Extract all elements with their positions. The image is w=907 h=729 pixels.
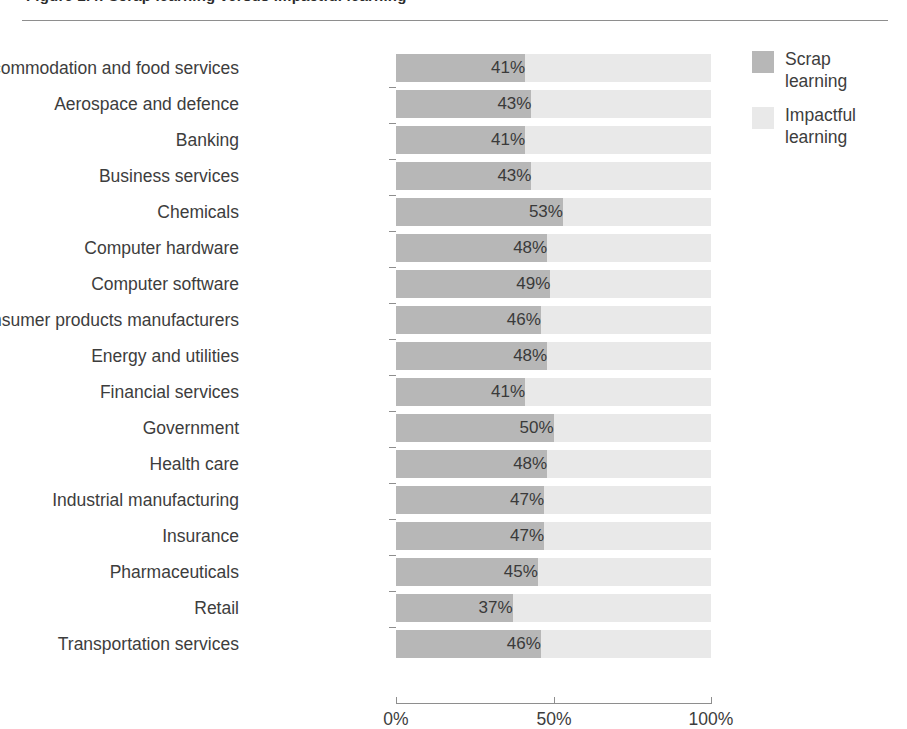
- legend-swatch-scrap-learning: [752, 51, 774, 73]
- bar-value-label: 37%: [396, 594, 522, 622]
- bar-row: Consumer products manufacturers46%: [0, 302, 760, 338]
- category-label: Energy and utilities: [91, 338, 239, 374]
- category-label: Computer hardware: [84, 230, 239, 266]
- bar-value-label: 49%: [396, 270, 559, 298]
- y-axis-tick: [389, 87, 396, 88]
- category-label: Retail: [194, 590, 239, 626]
- bar-value-label: 46%: [396, 630, 550, 658]
- bar-row: Health care48%: [0, 446, 760, 482]
- bar-value-label: 46%: [396, 306, 550, 334]
- bar-value-label: 41%: [396, 378, 534, 406]
- category-label: Banking: [176, 122, 239, 158]
- y-axis-tick: [389, 519, 396, 520]
- x-axis-tick-label: 100%: [689, 709, 734, 729]
- bar-value-label: 47%: [396, 522, 553, 550]
- bar-row: Financial services41%: [0, 374, 760, 410]
- y-axis-tick: [389, 447, 396, 448]
- bar-track-impactful-learning: 41%: [396, 378, 711, 406]
- x-axis-tick-label: 0%: [383, 709, 408, 729]
- bar-row: Aerospace and defence43%: [0, 86, 760, 122]
- bar-row: Transportation services46%: [0, 626, 760, 662]
- category-label: Chemicals: [157, 194, 239, 230]
- figure-title: Figure 2.4: Scrap learning versus impact…: [26, 0, 407, 4]
- y-axis-tick: [389, 159, 396, 160]
- chart-legend: Scrap learning Impactful learning: [752, 48, 902, 160]
- bar-track-impactful-learning: 47%: [396, 486, 711, 514]
- bar-value-label: 43%: [396, 90, 540, 118]
- bar-row: Insurance47%: [0, 518, 760, 554]
- bar-row: Business services43%: [0, 158, 760, 194]
- category-label: Transportation services: [58, 626, 239, 662]
- bar-value-label: 43%: [396, 162, 540, 190]
- category-label: Insurance: [162, 518, 239, 554]
- bar-row: Pharmaceuticals45%: [0, 554, 760, 590]
- y-axis-tick: [389, 267, 396, 268]
- bar-value-label: 48%: [396, 342, 556, 370]
- bar-value-label: 48%: [396, 450, 556, 478]
- category-label: Financial services: [100, 374, 239, 410]
- category-label: Pharmaceuticals: [110, 554, 239, 590]
- category-label: Health care: [150, 446, 240, 482]
- legend-label-scrap-learning: Scrap learning: [785, 48, 890, 92]
- bar-row: Computer software49%: [0, 266, 760, 302]
- bar-value-label: 41%: [396, 54, 534, 82]
- bar-value-label: 53%: [396, 198, 572, 226]
- y-axis-tick: [389, 591, 396, 592]
- y-axis-tick: [389, 303, 396, 304]
- category-label: Industrial manufacturing: [52, 482, 239, 518]
- legend-swatch-impactful-learning: [752, 107, 774, 129]
- category-label: Consumer products manufacturers: [0, 302, 239, 338]
- bar-row: Chemicals53%: [0, 194, 760, 230]
- bar-track-impactful-learning: 43%: [396, 162, 711, 190]
- bar-track-impactful-learning: 48%: [396, 342, 711, 370]
- bar-track-impactful-learning: 48%: [396, 234, 711, 262]
- category-label: Accommodation and food services: [0, 50, 239, 86]
- bar-track-impactful-learning: 37%: [396, 594, 711, 622]
- bar-value-label: 47%: [396, 486, 553, 514]
- legend-item-scrap-learning: Scrap learning: [752, 48, 902, 92]
- x-axis-tick: [554, 697, 555, 704]
- x-axis-tick-label: 50%: [536, 709, 571, 729]
- bar-value-label: 48%: [396, 234, 556, 262]
- bar-track-impactful-learning: 49%: [396, 270, 711, 298]
- category-label: Computer software: [91, 266, 239, 302]
- y-axis-tick: [389, 483, 396, 484]
- bar-track-impactful-learning: 46%: [396, 630, 711, 658]
- y-axis-tick: [389, 195, 396, 196]
- bar-row: Government50%: [0, 410, 760, 446]
- bar-row: Industrial manufacturing47%: [0, 482, 760, 518]
- category-label: Government: [143, 410, 239, 446]
- y-axis-tick: [389, 339, 396, 340]
- bar-track-impactful-learning: 47%: [396, 522, 711, 550]
- category-label: Aerospace and defence: [54, 86, 239, 122]
- bar-row: Retail37%: [0, 590, 760, 626]
- category-label: Business services: [99, 158, 239, 194]
- x-axis-tick: [396, 697, 397, 704]
- bar-row: Banking41%: [0, 122, 760, 158]
- figure-title-strip: Figure 2.4: Scrap learning versus impact…: [0, 0, 907, 14]
- y-axis-tick: [389, 411, 396, 412]
- bar-track-impactful-learning: 50%: [396, 414, 711, 442]
- bar-row: Computer hardware48%: [0, 230, 760, 266]
- bar-track-impactful-learning: 41%: [396, 54, 711, 82]
- bar-track-impactful-learning: 43%: [396, 90, 711, 118]
- bar-value-label: 50%: [396, 414, 563, 442]
- bar-row: Energy and utilities48%: [0, 338, 760, 374]
- bar-row: Accommodation and food services41%: [0, 50, 760, 86]
- bar-value-label: 45%: [396, 558, 547, 586]
- y-axis-tick: [389, 123, 396, 124]
- y-axis-tick: [389, 627, 396, 628]
- legend-item-impactful-learning: Impactful learning: [752, 104, 902, 148]
- y-axis-tick: [389, 555, 396, 556]
- bar-value-label: 41%: [396, 126, 534, 154]
- bar-track-impactful-learning: 46%: [396, 306, 711, 334]
- bar-track-impactful-learning: 53%: [396, 198, 711, 226]
- x-axis-tick: [711, 697, 712, 704]
- bar-track-impactful-learning: 45%: [396, 558, 711, 586]
- y-axis-tick: [389, 375, 396, 376]
- bar-track-impactful-learning: 48%: [396, 450, 711, 478]
- y-axis-tick: [389, 231, 396, 232]
- title-divider: [22, 20, 888, 21]
- legend-label-impactful-learning: Impactful learning: [785, 104, 890, 148]
